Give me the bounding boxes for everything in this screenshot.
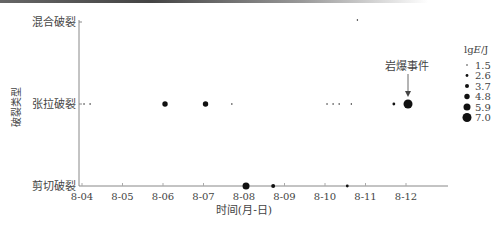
data-point [271,184,275,188]
legend-marker-icon [464,104,471,111]
x-tick-label: 8-10 [314,191,336,202]
data-point [392,103,395,106]
x-tick-label: 8-08 [233,191,255,202]
data-point [338,103,339,104]
data-point [162,101,167,106]
legend: lgE/J 1.52.63.74.85.97.0 [463,44,491,123]
y-label-mixed: 混合破裂 [32,15,76,29]
data-point [357,19,358,20]
data-point [346,185,349,188]
x-tick-label: 8-06 [152,191,174,202]
legend-label: 4.8 [475,91,491,102]
x-tick-label: 8-11 [354,191,376,202]
arrow-head-icon [405,91,411,97]
x-tick-label: 8-12 [395,191,417,202]
data-point [203,101,208,106]
legend-label: 2.6 [475,70,491,81]
scatter-chart: 混合破裂 张拉破裂 剪切破裂 破裂类型 8-048-058-068-078-08… [0,0,504,227]
data-point [243,183,250,190]
legend-label: 7.0 [475,112,491,123]
data-point [89,103,90,104]
legend-label: 3.7 [475,81,491,92]
legend-label: 5.9 [475,102,491,113]
x-tick-label: 8-05 [111,191,133,202]
x-axis-title: 时间(月-日) [216,204,272,217]
legend-marker-icon [466,74,469,77]
y-label-tension: 张拉破裂 [32,97,76,111]
data-point [404,100,413,109]
legend-marker-icon [465,84,469,88]
legend-marker-icon [463,113,472,122]
legend-marker-icon [466,64,467,65]
y-label-shear: 剪切破裂 [32,179,76,193]
data-point [351,103,352,104]
y-axis-title: 破裂类型 [10,87,22,127]
data-points [83,19,412,189]
legend-label: 1.5 [475,60,491,71]
data-point [231,103,232,104]
data-point [326,103,327,104]
data-point [83,103,84,104]
data-point [332,103,333,104]
x-tick-label: 8-09 [273,191,295,202]
legend-title: lgE/J [464,44,488,55]
x-tick-label: 8-04 [71,191,93,202]
legend-marker-icon [464,94,469,99]
x-tick-label: 8-07 [192,191,214,202]
annotation-label: 岩爆事件 [385,59,429,73]
